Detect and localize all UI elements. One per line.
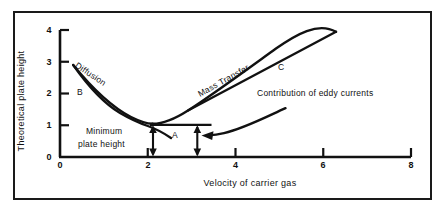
mass-transfer-asymptote — [188, 32, 336, 111]
y-tick-marks — [60, 30, 69, 125]
y-tick-label-4: 4 — [42, 25, 56, 35]
y-tick-label-2: 2 — [42, 88, 56, 98]
y-axis-title: Theoretical plate height — [16, 41, 26, 161]
annotation-a-term: A — [172, 130, 178, 140]
x-axis-title: Velocity of carrier gas — [150, 178, 350, 188]
annotation-c-term: C — [278, 62, 284, 72]
y-tick-label-3: 3 — [42, 57, 56, 67]
x-tick-label-4: 4 — [229, 160, 243, 170]
x-tick-marks — [148, 148, 411, 157]
annotation-minimum-line2: plate height — [78, 139, 125, 149]
annotation-b-term: B — [77, 87, 83, 97]
x-tick-label-8: 8 — [404, 160, 418, 170]
van-deemter-ascending-branch — [153, 28, 337, 124]
measure-arrow-right-head-down — [194, 149, 202, 157]
measure-arrow-left-head-down — [149, 149, 157, 157]
chart-figure: Theoretical plate height Velocity of car… — [0, 0, 447, 212]
y-tick-label-1: 1 — [42, 120, 56, 130]
eddy-currents-pointer-curve — [209, 108, 286, 135]
measure-arrow-right-head-up — [194, 125, 202, 133]
annotation-minimum-line1: Minimum — [86, 126, 122, 136]
annotation-eddy-currents: Contribution of eddy currents — [257, 88, 373, 98]
x-tick-label-2: 2 — [141, 160, 155, 170]
eddy-currents-pointer-arrowhead — [202, 131, 214, 140]
x-tick-label-6: 6 — [316, 160, 330, 170]
x-tick-label-0: 0 — [53, 160, 67, 170]
